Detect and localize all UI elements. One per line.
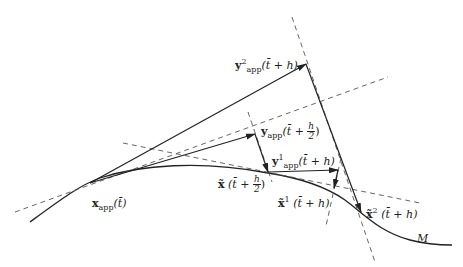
label-x-tilde-2: x̃2 (t̄ + h) [366,205,417,221]
label-y2-app: y2app(t̄ + h) [235,56,298,76]
diagram-canvas [0,0,463,267]
label-y1-app: y1app(t̄ + h) [272,152,335,172]
label-x-tilde-1: x̃1 (t̄ + h) [278,194,329,210]
label-x-tilde-half: x̃ (t̄ + h2) [218,175,265,194]
label-x-app: xapp(t̄) [92,198,127,214]
arrow-y1-to-xtilde1 [334,170,338,188]
label-manifold-m: M [417,233,428,245]
label-y-app-half: yapp(t̄ + h2) [261,122,319,142]
